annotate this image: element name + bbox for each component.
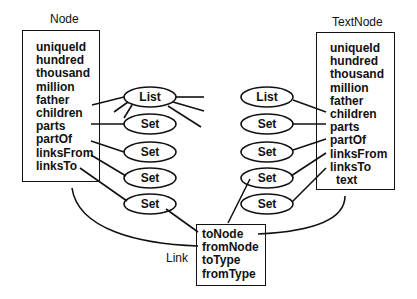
node-field: thousand	[36, 67, 93, 80]
node-field: partOf	[36, 133, 93, 146]
left-set-label: Set	[124, 168, 176, 188]
textnode-field: text	[330, 174, 387, 187]
textnode-field: million	[330, 82, 387, 95]
link-fields: toNode fromNode toType fromType	[202, 228, 259, 281]
node-title: Node	[50, 12, 79, 26]
node-field: linksFrom	[36, 147, 93, 160]
node-field: linksTo	[36, 160, 93, 173]
textnode-title: TextNode	[332, 15, 383, 29]
left-set-label: Set	[124, 114, 176, 134]
link-field: fromType	[202, 268, 259, 281]
node-fields: uniqueId hundred thousand million father…	[36, 41, 93, 173]
right-set-label: Set	[241, 114, 293, 134]
left-set-label: Set	[124, 142, 176, 162]
right-set-label: Set	[241, 142, 293, 162]
node-field: million	[36, 81, 93, 94]
link-title: Link	[166, 251, 188, 265]
textnode-field: partOf	[330, 134, 387, 147]
right-list-label: List	[241, 87, 293, 107]
textnode-field: thousand	[330, 68, 387, 81]
right-set-label: Set	[241, 194, 293, 214]
left-list-label: List	[124, 87, 176, 107]
textnode-field: linksFrom	[330, 148, 387, 161]
right-set-label: Set	[241, 168, 293, 188]
left-set-label: Set	[124, 194, 176, 214]
link-field: toType	[202, 254, 259, 267]
textnode-fields: uniqueId hundred thousand million father…	[330, 42, 387, 187]
